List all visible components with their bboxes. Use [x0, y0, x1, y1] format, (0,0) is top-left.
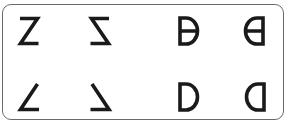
glyph-z-normal: Letter Z, normal orientation: [20, 19, 39, 44]
glyph-d-normal: Letter D, normal orientation: [180, 84, 197, 110]
glyph-d-bar: Letter D with horizontal middle bar: [180, 18, 198, 44]
glyph-grid: Letter Z, normal orientation Letter Z, h…: [0, 0, 289, 127]
glyph-z-no-top-mirrored: Mirrored Z missing its top stroke: [91, 84, 110, 110]
glyph-z-no-top: Letter Z missing its top stroke: [21, 84, 40, 110]
glyph-z-mirrored: Letter Z, horizontally mirrored: [91, 19, 110, 44]
glyph-d-bar-mirrored: Letter D with middle bar, horizontally m…: [246, 18, 264, 44]
glyph-d-mirrored: Letter D, horizontally mirrored: [247, 84, 264, 110]
